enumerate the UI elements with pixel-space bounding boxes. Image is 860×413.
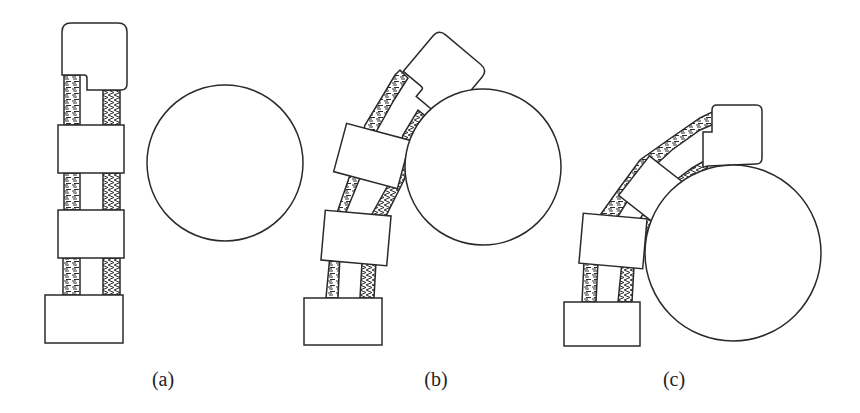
left-tendon-segment — [63, 258, 80, 295]
right-spring-segment — [103, 90, 120, 125]
phalanx-block — [579, 213, 647, 268]
panel-label-a: (a) — [152, 368, 174, 391]
left-tendon-segment — [64, 173, 80, 210]
panel-label-b: (b) — [424, 368, 447, 391]
target-object — [645, 165, 821, 341]
phalanx-block — [58, 210, 124, 258]
target-object — [147, 85, 303, 241]
target-object — [405, 89, 561, 245]
fingertip-block — [703, 105, 762, 168]
phalanx-block — [334, 123, 411, 188]
right-spring-segment — [103, 258, 120, 295]
left-tendon-segment — [64, 75, 80, 125]
phalanx-block — [58, 125, 124, 173]
panel-a — [45, 23, 303, 343]
panel-b — [304, 29, 561, 345]
gripper-diagram — [0, 0, 860, 413]
base-block — [564, 302, 640, 346]
panel-c — [564, 105, 821, 346]
base-block — [45, 295, 123, 343]
base-block — [304, 298, 382, 345]
right-spring-segment — [103, 173, 120, 210]
phalanx-block — [321, 210, 391, 266]
panel-label-c: (c) — [663, 368, 685, 391]
